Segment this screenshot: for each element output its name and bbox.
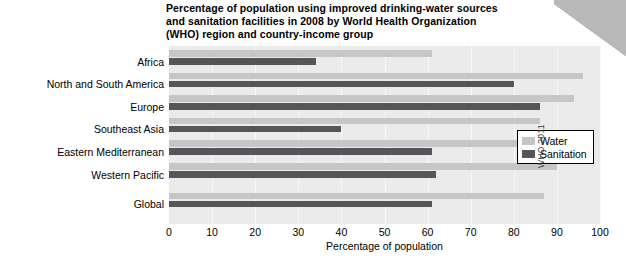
category-label: Eastern Mediterranean [4, 146, 164, 158]
bar-sanitation [169, 171, 436, 178]
bar-water [169, 118, 540, 125]
bar-sanitation [169, 103, 540, 110]
legend-swatch-water-icon [522, 137, 535, 145]
bar-sanitation [169, 58, 316, 65]
x-tick-label: 0 [166, 226, 172, 238]
x-tick-label: 80 [508, 226, 520, 238]
category-label: North and South America [4, 78, 164, 90]
bar-group [169, 73, 600, 88]
gridline [600, 46, 601, 224]
x-tick-label: 30 [292, 226, 304, 238]
bar-water [169, 193, 544, 200]
chart-title: Percentage of population using improved … [166, 2, 506, 42]
bar-group [169, 50, 600, 65]
x-tick-label: 40 [336, 226, 348, 238]
x-axis-title: Percentage of population [169, 240, 600, 252]
source-credit: WHO 2011 [536, 124, 546, 168]
y-axis-category-labels: AfricaNorth and South AmericaEuropeSouth… [0, 46, 164, 224]
bar-sanitation [169, 81, 514, 88]
legend-swatch-sanitation-icon [522, 150, 535, 158]
x-tick-label: 60 [422, 226, 434, 238]
category-label: Western Pacific [4, 169, 164, 181]
x-tick-label: 50 [379, 226, 391, 238]
bar-water [169, 163, 557, 170]
bar-water [169, 50, 432, 57]
category-label: Europe [4, 101, 164, 113]
bar-sanitation [169, 126, 341, 133]
bar-sanitation [169, 148, 432, 155]
x-tick-label: 20 [249, 226, 261, 238]
chart-legend: Water Sanitation [517, 130, 594, 164]
bar-sanitation [169, 201, 432, 208]
legend-item-sanitation: Sanitation [522, 147, 587, 160]
bar-group [169, 193, 600, 208]
x-axis-ticks: 0102030405060708090100 [169, 224, 600, 240]
chart-figure: Percentage of population using improved … [0, 0, 626, 266]
bar-water [169, 73, 583, 80]
legend-label-sanitation: Sanitation [540, 148, 587, 160]
x-tick-label: 90 [551, 226, 563, 238]
x-tick-label: 70 [465, 226, 477, 238]
x-tick-label: 100 [591, 226, 609, 238]
category-label: Africa [4, 56, 164, 68]
bar-water [169, 95, 574, 102]
category-label: Global [4, 198, 164, 210]
bar-group [169, 95, 600, 110]
x-tick-label: 10 [206, 226, 218, 238]
legend-item-water: Water [522, 134, 587, 147]
bar-water [169, 140, 527, 147]
category-label: Southeast Asia [4, 123, 164, 135]
